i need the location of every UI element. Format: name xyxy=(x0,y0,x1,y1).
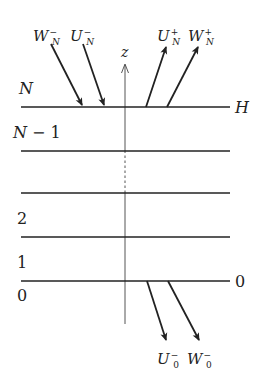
arrow-W-N-minus xyxy=(51,44,82,105)
arrow-U-N-minus xyxy=(83,44,104,105)
height-label-0: 0 xyxy=(235,272,245,291)
label-U-0-minus: U−0 xyxy=(157,350,179,370)
arrow-U-0-minus xyxy=(147,281,166,340)
label-W-N-minus: W−N xyxy=(33,27,61,47)
layer-label-0: 0 xyxy=(17,286,27,305)
z-axis-label: z xyxy=(120,44,129,60)
arrow-W-N-plus xyxy=(167,47,198,107)
arrow-W-0-minus xyxy=(168,281,199,340)
label-U-N-minus: U−N xyxy=(70,27,95,47)
layer-label-1: 1 xyxy=(17,253,27,272)
label-U-N-plus: U+N xyxy=(157,27,181,47)
label-W-0-minus: W−0 xyxy=(187,350,212,370)
layered-medium-diagram: z N N − 1 2 1 0 H 0 W−N U−N U+N W+N U−0 … xyxy=(0,0,266,390)
layer-label-2: 2 xyxy=(17,209,27,228)
label-W-N-plus: W+N xyxy=(188,27,215,47)
layer-label-N: N xyxy=(18,79,34,98)
height-label-H: H xyxy=(234,98,250,117)
arrow-U-N-plus xyxy=(146,47,166,107)
layer-label-N-minus-1: N − 1 xyxy=(12,123,61,142)
